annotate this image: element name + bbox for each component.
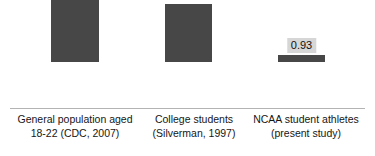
category-label-ncaa-athletes: NCAA student athletes (present study) bbox=[244, 112, 368, 140]
category-label-line1: College students bbox=[145, 112, 243, 126]
category-axis-labels: General population aged 18-22 (CDC, 2007… bbox=[0, 112, 375, 156]
x-axis-line bbox=[10, 108, 365, 109]
bar-value-label-college-students: 7.5 bbox=[181, 0, 196, 1]
category-label-line1: NCAA student athletes bbox=[244, 112, 368, 126]
bar-group-general-population: 11.2 bbox=[51, 0, 99, 62]
bar-group-college-students: 7.5 bbox=[165, 4, 212, 62]
category-label-line2: (present study) bbox=[244, 126, 368, 140]
bar-chart: 11.2 7.5 0.93 General population aged 18… bbox=[0, 0, 375, 156]
bar-value-label-ncaa-athletes: 0.93 bbox=[287, 38, 316, 53]
category-label-general-population: General population aged 18-22 (CDC, 2007… bbox=[3, 112, 147, 140]
bar-college-students[interactable]: 7.5 bbox=[165, 4, 212, 62]
category-label-line2: (Silverman, 1997) bbox=[145, 126, 243, 140]
category-label-line2: 18-22 (CDC, 2007) bbox=[3, 126, 147, 140]
bar-general-population[interactable]: 11.2 bbox=[51, 0, 99, 62]
category-label-college-students: College students (Silverman, 1997) bbox=[145, 112, 243, 140]
plot-area: 11.2 7.5 0.93 bbox=[0, 0, 375, 110]
category-label-line1: General population aged bbox=[3, 112, 147, 126]
bar-group-ncaa-athletes: 0.93 bbox=[278, 55, 325, 62]
bar-ncaa-athletes[interactable]: 0.93 bbox=[278, 55, 325, 62]
